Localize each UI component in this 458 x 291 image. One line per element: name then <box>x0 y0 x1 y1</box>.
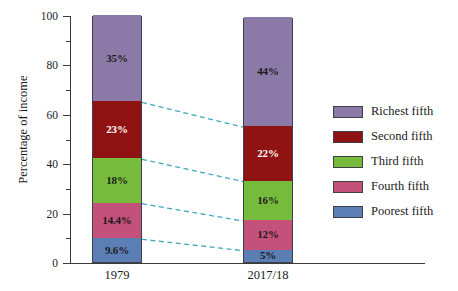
bar-segment[interactable]: 18% <box>93 158 141 202</box>
y-tick-label: 100 <box>0 10 58 22</box>
segment-value-label: 23% <box>106 124 127 135</box>
legend-item-fourth-fifth[interactable]: Fourth fifth <box>333 174 433 199</box>
y-tick-minor <box>66 140 71 141</box>
y-tick-major <box>63 115 71 116</box>
bar-2017-18[interactable]: 5%12%16%22%44% <box>243 18 293 263</box>
bar-segment[interactable]: 35% <box>93 15 141 101</box>
segment-value-label: 18% <box>106 175 127 186</box>
bar-1979[interactable]: 9.6%14.4%18%23%35% <box>92 16 142 263</box>
legend: Richest fifthSecond fifthThird fifthFour… <box>333 99 433 224</box>
bar-segment[interactable]: 9.6% <box>93 238 141 262</box>
legend-label: Second fifth <box>371 129 432 144</box>
segment-value-label: 9.6% <box>105 245 129 256</box>
legend-swatch <box>333 156 363 168</box>
segment-value-label: 16% <box>257 195 278 206</box>
y-tick-minor <box>66 90 71 91</box>
y-tick-label: 40 <box>0 158 58 170</box>
segment-value-label: 44% <box>257 66 278 77</box>
legend-label: Third fifth <box>371 154 423 169</box>
x-tick-label: 1979 <box>105 268 130 283</box>
y-tick-major <box>63 164 71 165</box>
legend-swatch <box>333 131 363 143</box>
legend-item-richest-fifth[interactable]: Richest fifth <box>333 99 433 124</box>
segment-connector <box>142 204 243 221</box>
x-tick-label: 2017/18 <box>248 268 289 283</box>
segment-value-label: 5% <box>260 250 276 261</box>
segment-value-label: 12% <box>257 229 278 240</box>
stacked-bar-chart: Percentage of income 020406080100 9.6%14… <box>0 0 458 291</box>
legend-swatch <box>333 106 363 118</box>
segment-value-label: 35% <box>106 53 127 64</box>
segment-connector <box>142 159 243 181</box>
bar-segment[interactable]: 5% <box>244 250 292 262</box>
y-tick-minor <box>66 238 71 239</box>
bar-segment[interactable]: 23% <box>93 101 141 158</box>
legend-item-second-fifth[interactable]: Second fifth <box>333 124 433 149</box>
x-axis-line <box>70 263 425 264</box>
y-tick-major <box>63 65 71 66</box>
segment-connector <box>142 239 243 250</box>
bar-segment[interactable]: 16% <box>244 181 292 221</box>
legend-label: Richest fifth <box>371 104 433 119</box>
segment-value-label: 14.4% <box>102 215 131 226</box>
bar-segment[interactable]: 44% <box>244 17 292 126</box>
legend-label: Fourth fifth <box>371 179 429 194</box>
y-tick-label: 20 <box>0 208 58 220</box>
bar-segment[interactable]: 14.4% <box>93 203 141 239</box>
y-tick-major <box>63 16 71 17</box>
y-tick-label: 80 <box>0 59 58 71</box>
y-tick-major <box>63 263 71 264</box>
segment-value-label: 22% <box>257 148 278 159</box>
y-tick-minor <box>66 189 71 190</box>
legend-swatch <box>333 206 363 218</box>
y-tick-minor <box>66 41 71 42</box>
y-tick-label: 60 <box>0 109 58 121</box>
legend-label: Poorest fifth <box>371 204 433 219</box>
legend-swatch <box>333 181 363 193</box>
legend-item-third-fifth[interactable]: Third fifth <box>333 149 433 174</box>
bar-segment[interactable]: 22% <box>244 126 292 180</box>
legend-item-poorest-fifth[interactable]: Poorest fifth <box>333 199 433 224</box>
y-tick-major <box>63 214 71 215</box>
segment-connector <box>142 102 243 127</box>
bar-segment[interactable]: 12% <box>244 220 292 250</box>
y-tick-label: 0 <box>0 257 58 269</box>
